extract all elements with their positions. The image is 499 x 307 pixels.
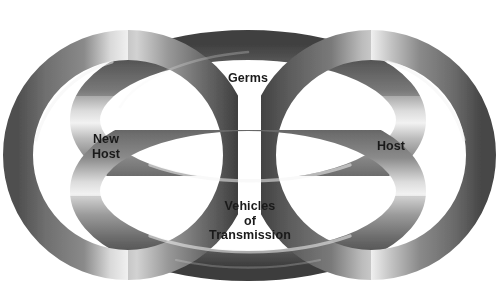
chain-of-infection-diagram: New Host Germs Host Vehicles of Transmis… bbox=[0, 0, 499, 307]
chain-rings-graphic bbox=[0, 0, 499, 307]
